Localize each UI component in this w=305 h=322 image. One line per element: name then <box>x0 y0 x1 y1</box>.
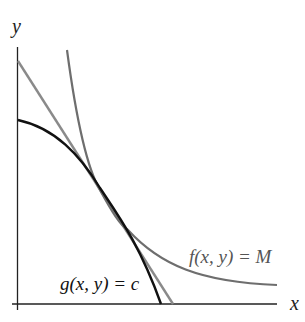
f-curve-label: f(x, y) = M <box>189 246 273 268</box>
g-curve-label: g(x, y) = c <box>60 273 140 295</box>
x-axis-label: x <box>289 292 299 314</box>
y-axis-label: y <box>10 15 21 38</box>
diagram-canvas: y x f(x, y) = M g(x, y) = c <box>0 0 305 322</box>
